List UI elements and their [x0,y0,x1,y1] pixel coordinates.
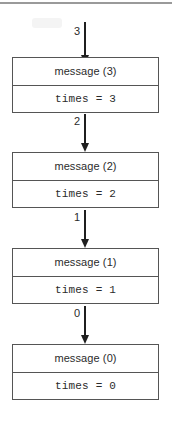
frame-state-message-2: times = 2 [13,180,158,207]
stack-frame-message-1: message (1) times = 1 [12,248,159,304]
frame-title-message-2: message (2) [13,153,158,180]
scan-artifact [32,18,62,28]
frame-title-message-3: message (3) [13,58,158,85]
arrow-call-1: 1 [84,210,86,240]
arrow-label-call-0: 0 [74,308,80,319]
arrow-call-0: 0 [84,306,86,336]
arrow-call-3: 3 [84,22,86,56]
arrow-label-call-1: 1 [74,212,80,223]
frame-title-message-1: message (1) [13,249,158,276]
recursion-trace-diagram: 3 message (3) times = 3 2 message (2) ti… [0,0,172,421]
frame-state-message-0: times = 0 [13,372,158,399]
arrow-label-call-2: 2 [74,116,80,127]
frame-state-message-3: times = 3 [13,85,158,112]
stack-frame-message-0: message (0) times = 0 [12,344,159,400]
arrow-call-2: 2 [84,114,86,144]
frame-title-message-0: message (0) [13,345,158,372]
stack-frame-message-3: message (3) times = 3 [12,57,159,113]
stack-frame-message-2: message (2) times = 2 [12,152,159,208]
arrow-label-call-3: 3 [74,26,80,37]
top-divider-rule [0,2,172,4]
frame-state-message-1: times = 1 [13,276,158,303]
